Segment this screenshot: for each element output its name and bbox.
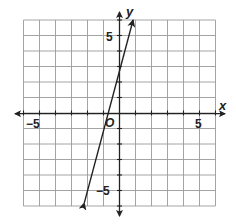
function-line	[84, 20, 133, 203]
x-axis-label: x	[218, 98, 227, 113]
coordinate-plane: y x O −5 5 5 −5	[0, 0, 236, 224]
x-tick-label-5: 5	[195, 117, 202, 131]
y-tick-label-5: 5	[106, 30, 113, 44]
origin-label: O	[105, 116, 115, 130]
y-tick-label-neg5: −5	[96, 184, 110, 198]
x-tick-label-neg5: −5	[26, 117, 40, 131]
y-axis-label: y	[125, 4, 134, 19]
